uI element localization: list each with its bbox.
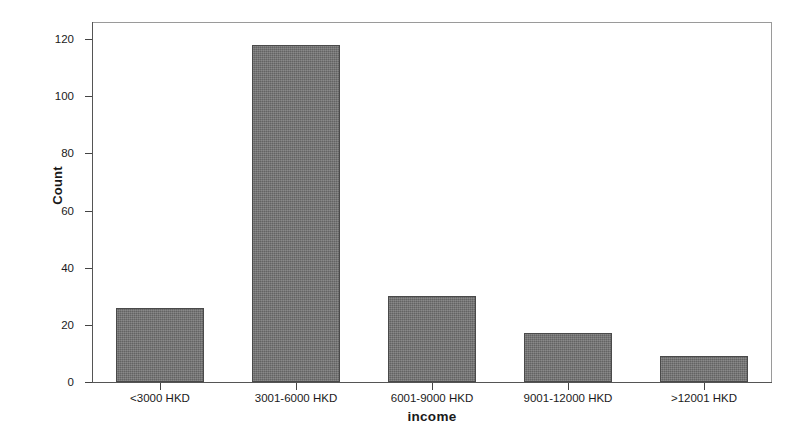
bar-chart: Count 020406080100120 <3000 HKD3001-6000… (0, 0, 811, 441)
x-tick-mark (704, 383, 705, 390)
x-tick-mark (568, 383, 569, 390)
bar (116, 308, 204, 382)
y-tick-mark (85, 325, 92, 326)
y-tick-label: 40 (30, 262, 74, 274)
y-tick-mark (85, 153, 92, 154)
x-tick-label: 6001-9000 HKD (391, 392, 473, 404)
bar (388, 296, 476, 382)
y-tick-mark (85, 39, 92, 40)
x-tick-label: <3000 HKD (130, 392, 190, 404)
y-tick-label: 60 (30, 205, 74, 217)
y-tick-mark (85, 211, 92, 212)
x-tick-mark (432, 383, 433, 390)
x-tick-label: 9001-12000 HKD (524, 392, 613, 404)
x-tick-mark (296, 383, 297, 390)
x-tick-label: >12001 HKD (671, 392, 737, 404)
y-tick-label: 20 (30, 319, 74, 331)
y-tick-mark (85, 382, 92, 383)
y-tick-label: 100 (30, 90, 74, 102)
y-tick-mark (85, 96, 92, 97)
bar (524, 333, 612, 382)
y-tick-label: 0 (30, 376, 74, 388)
y-axis-line (92, 22, 93, 383)
bar (660, 356, 748, 382)
y-tick-label: 120 (30, 33, 74, 45)
y-tick-mark (85, 268, 92, 269)
x-tick-label: 3001-6000 HKD (255, 392, 337, 404)
x-tick-mark (160, 383, 161, 390)
y-tick-label: 80 (30, 147, 74, 159)
bar (252, 45, 340, 382)
x-axis-title: income (92, 409, 772, 424)
